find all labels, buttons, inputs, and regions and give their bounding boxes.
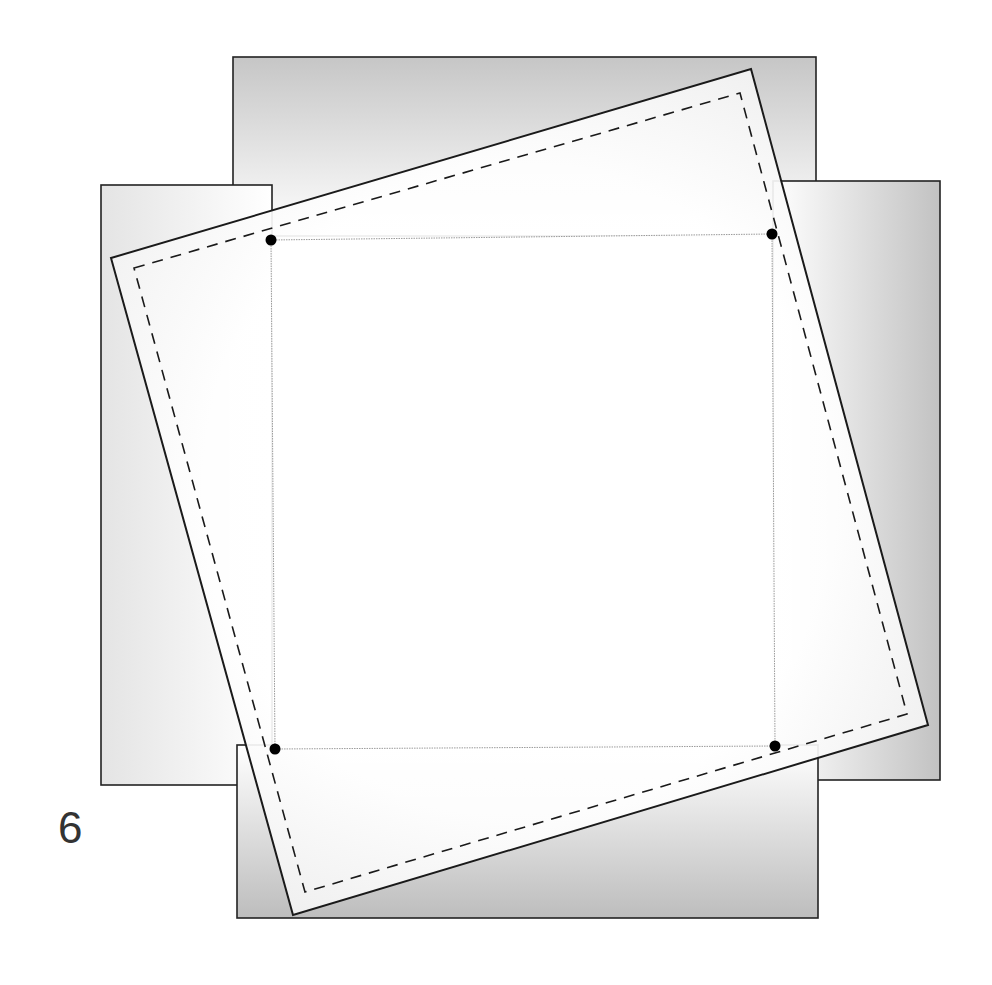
corner-dot [266, 235, 277, 246]
figure-number-label: 6 [58, 806, 82, 850]
diagram-canvas [0, 0, 992, 985]
corner-dot [270, 744, 281, 755]
center-square [271, 234, 775, 749]
diagram-figure: 6 [0, 0, 992, 985]
corner-dot [767, 229, 778, 240]
corner-dot [770, 741, 781, 752]
